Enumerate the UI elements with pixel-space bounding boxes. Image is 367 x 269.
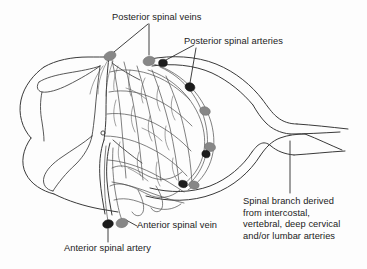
- plexus-twig-5: [171, 96, 175, 120]
- left-anterior-horn-inner: [53, 136, 92, 191]
- spinal-branch-vessel-mid: [297, 124, 348, 129]
- vessel-markers: [102, 50, 217, 230]
- posterior-median-sulcus: [104, 57, 109, 140]
- anterior-spinal-vein-marker: [115, 217, 129, 228]
- nerve-root-sleeve-lower-2: [252, 143, 294, 155]
- label-anterior-spinal-vein: Anterior spinal vein: [137, 220, 217, 232]
- anterior-median-fissure-2: [107, 143, 112, 215]
- gray-matter-butterfly: [37, 63, 142, 191]
- spinal-cord-vasculature-figure: Posterior spinal veins Posterior spinal …: [0, 0, 367, 269]
- plexus-strand-3: [137, 66, 161, 181]
- spinal-branch-vessel-lower: [294, 151, 345, 155]
- leader-posterior-arteries-right: [190, 48, 196, 83]
- plexus-twig-4: [157, 86, 160, 111]
- lateral-vein-upper-marker: [199, 105, 212, 116]
- plexus-left-3: [90, 66, 103, 94]
- anterior-vessel-wave-1: [112, 166, 182, 180]
- dura-right-bottom-outer: [146, 156, 260, 200]
- spinal-branch-vessel-upper: [290, 132, 340, 134]
- nerve-root-sleeve-upper: [262, 99, 297, 124]
- plexus-cross-1: [110, 70, 190, 100]
- cord-outline-group: [20, 57, 118, 215]
- pial-vascular-ring: [148, 63, 214, 190]
- dura-left-lower: [23, 138, 54, 194]
- cord-top-left: [44, 57, 109, 67]
- posterior-spinal-artery-medial-marker: [159, 59, 168, 67]
- right-anterior-horn: [113, 140, 142, 163]
- posterior-spinal-vein-right-marker: [142, 55, 156, 67]
- pial-ring-inner: [148, 70, 205, 184]
- spinal-branch-vessel-lower-2: [305, 134, 342, 150]
- plexus-twig-15: [142, 128, 162, 141]
- anterior-spinal-artery-marker: [102, 219, 115, 230]
- plexus-cross-5: [108, 160, 184, 192]
- left-anterior-horn: [43, 136, 92, 191]
- label-posterior-spinal-veins: Posterior spinal veins: [112, 12, 201, 24]
- plexus-twig-6: [114, 100, 116, 126]
- gray-matter-lateral-left: [41, 92, 45, 141]
- left-posterior-horn-inner: [39, 66, 100, 82]
- nerve-root-sleeve-upper-2: [253, 105, 290, 134]
- label-posterior-spinal-arteries: Posterior spinal arteries: [184, 36, 283, 48]
- label-spinal-branch: Spinal branch derived from intercostal, …: [243, 196, 340, 242]
- dura-right-bottom-inner: [150, 152, 252, 192]
- plexus-strand-5: [166, 76, 192, 183]
- label-anterior-spinal-artery: Anterior spinal artery: [64, 243, 151, 255]
- artery-lower-marker: [178, 180, 188, 189]
- vascular-plexus: [90, 60, 192, 216]
- left-posterior-horn: [37, 66, 100, 92]
- leader-posterior-veins-left: [114, 24, 148, 52]
